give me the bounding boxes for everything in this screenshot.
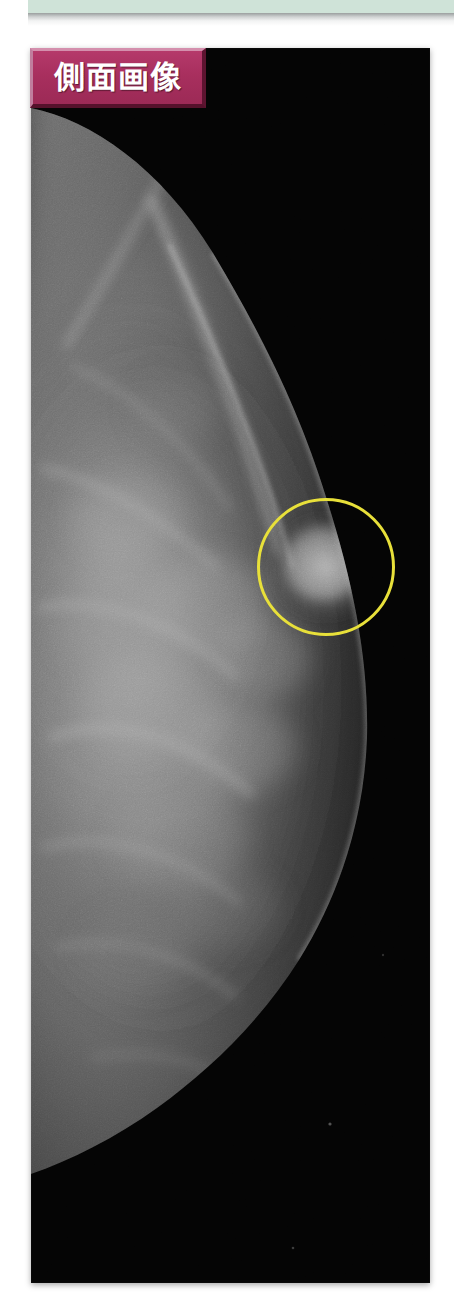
mammogram-image [31, 48, 430, 1283]
lesion-roi-circle[interactable] [257, 498, 395, 636]
film-grain-overlay [31, 48, 430, 1283]
header-band-container [28, 0, 454, 26]
view-label-badge: 側面画像 [30, 48, 206, 108]
header-band-shadow [28, 13, 454, 26]
panel-inner-border [31, 48, 430, 1283]
mammogram-panel[interactable] [31, 48, 430, 1283]
view-label-text: 側面画像 [54, 62, 182, 93]
header-band [28, 0, 454, 13]
